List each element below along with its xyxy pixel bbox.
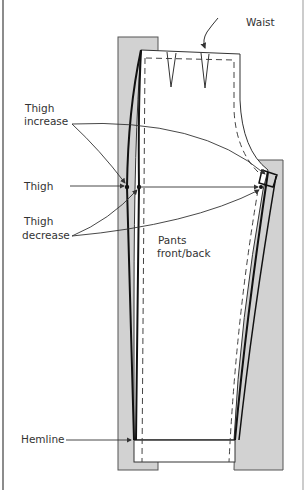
label-pattern-line2: front/back — [157, 247, 210, 260]
label-hemline: Hemline — [21, 433, 65, 446]
thigh-increase-leader-left — [72, 124, 125, 183]
label-waist: Waist — [246, 16, 275, 29]
pants-pattern-diagram — [0, 0, 306, 490]
label-thigh: Thigh — [24, 180, 53, 193]
waist-leader — [204, 18, 218, 48]
label-thigh-increase-line2: increase — [24, 115, 68, 128]
label-thigh-increase-line1: Thigh — [25, 102, 54, 115]
thigh-increase-point — [125, 185, 129, 189]
right-thigh-point — [259, 185, 263, 189]
label-thigh-decrease-line2: decrease — [22, 229, 70, 242]
label-thigh-decrease-line1: Thigh — [24, 215, 53, 228]
diagram-frame: Waist Thigh increase Thigh Thigh decreas… — [0, 0, 306, 490]
label-pattern-line1: Pants — [158, 234, 187, 247]
hem-extension — [134, 440, 235, 462]
